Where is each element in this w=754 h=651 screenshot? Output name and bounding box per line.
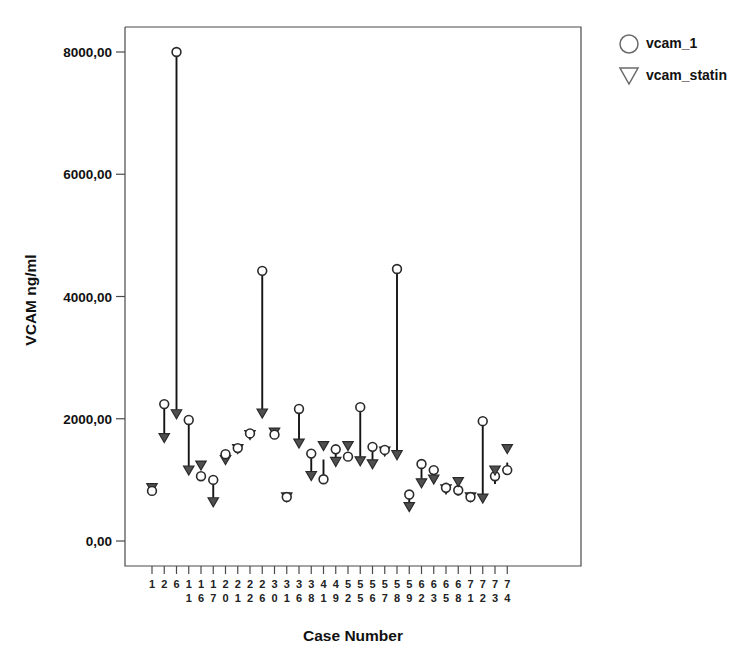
x-tick-label-digit: 2 <box>161 578 167 590</box>
x-tick-label-digit: 5 <box>406 578 412 590</box>
x-tick-label-digit: 5 <box>394 578 400 590</box>
x-tick-label-digit: 7 <box>504 578 510 590</box>
x-tick-label-digit: 7 <box>480 578 486 590</box>
x-tick-label-digit: 2 <box>480 592 486 604</box>
x-tick-label-digit: 1 <box>467 592 473 604</box>
x-tick-label-digit: 9 <box>406 592 412 604</box>
y-tick-label: 2000,00 <box>63 412 112 427</box>
x-tick-label-digit: 6 <box>198 592 204 604</box>
x-tick-label-digit: 3 <box>284 578 290 590</box>
marker-vcam-1 <box>344 452 353 461</box>
y-axis-title-text: VCAM ng/ml <box>22 254 39 345</box>
x-tick-label-digit: 0 <box>222 592 228 604</box>
x-tick-label-digit: 3 <box>431 592 437 604</box>
data-pair <box>465 493 475 502</box>
x-axis-title-text: Case Number <box>303 627 403 644</box>
x-tick-label-digit: 6 <box>443 578 449 590</box>
x-tick-label-digit: 8 <box>308 592 314 604</box>
marker-vcam-1 <box>356 403 365 412</box>
marker-vcam-1 <box>148 486 157 495</box>
x-tick-label-digit: 8 <box>394 592 400 604</box>
x-tick-label-digit: 4 <box>504 592 511 604</box>
x-tick-label-digit: 1 <box>235 592 241 604</box>
marker-vcam-1 <box>393 265 402 274</box>
y-tick-label: 4000,00 <box>63 290 112 305</box>
x-tick-label-digit: 6 <box>431 578 437 590</box>
x-tick-label-digit: 7 <box>210 592 216 604</box>
data-pair <box>147 484 157 496</box>
x-tick-label-digit: 2 <box>235 578 241 590</box>
marker-vcam-1 <box>270 430 279 439</box>
x-tick-label-digit: 5 <box>345 578 351 590</box>
marker-vcam-1 <box>417 460 426 469</box>
x-tick-label-digit: 1 <box>284 592 290 604</box>
marker-vcam-1 <box>246 429 255 438</box>
marker-vcam-1 <box>466 493 475 502</box>
marker-vcam-1 <box>478 417 487 426</box>
x-tick-label-digit: 6 <box>455 578 461 590</box>
x-tick-label-digit: 0 <box>271 592 277 604</box>
marker-vcam-1 <box>405 490 414 499</box>
marker-vcam-1 <box>380 446 389 455</box>
legend-label-vcam-statin: vcam_statin <box>646 67 727 83</box>
x-tick-label-digit: 5 <box>357 578 363 590</box>
marker-vcam-1 <box>282 493 291 502</box>
x-tick-label-digit: 6 <box>418 578 424 590</box>
x-tick-label-digit: 5 <box>443 592 449 604</box>
circle-marker-icon <box>620 35 638 53</box>
marker-vcam-1 <box>307 449 316 458</box>
y-tick-label: 0,00 <box>86 534 112 549</box>
marker-vcam-1 <box>429 466 438 475</box>
x-tick-label-digit: 3 <box>271 578 277 590</box>
vcam-arrow-chart: 0,002000,004000,006000,008000,00 VCAM ng… <box>0 0 754 651</box>
y-tick-label: 6000,00 <box>63 167 112 182</box>
data-pair <box>269 428 279 439</box>
x-tick-label-digit: 2 <box>345 592 351 604</box>
x-tick-label-digit: 2 <box>259 578 265 590</box>
x-tick-label-digit: 3 <box>492 592 498 604</box>
x-tick-label-digit: 2 <box>418 592 424 604</box>
marker-vcam-1 <box>233 444 242 453</box>
x-tick-label-digit: 6 <box>259 592 265 604</box>
x-tick-label-digit: 1 <box>149 578 155 590</box>
x-tick-label-digit: 7 <box>467 578 473 590</box>
x-tick-label-digit: 1 <box>186 578 192 590</box>
marker-vcam-1 <box>331 445 340 454</box>
marker-vcam-1 <box>172 48 181 57</box>
marker-vcam-1 <box>209 475 218 484</box>
data-pair <box>282 493 292 502</box>
chart-background <box>0 0 754 651</box>
y-tick-label: 8000,00 <box>63 45 112 60</box>
x-tick-label-digit: 3 <box>296 578 302 590</box>
x-tick-label-digit: 2 <box>247 578 253 590</box>
x-tick-label-digit: 5 <box>369 578 375 590</box>
x-tick-label-digit: 4 <box>333 578 340 590</box>
x-tick-label-digit: 1 <box>186 592 192 604</box>
legend-label-vcam-1: vcam_1 <box>646 35 698 51</box>
x-tick-label-digit: 5 <box>357 592 363 604</box>
x-tick-label-digit: 6 <box>173 578 179 590</box>
x-tick-label-digit: 4 <box>320 578 327 590</box>
marker-vcam-1 <box>368 442 377 451</box>
x-tick-label-digit: 5 <box>382 578 388 590</box>
x-tick-label-digit: 1 <box>210 578 216 590</box>
marker-vcam-1 <box>197 472 206 481</box>
x-tick-label-digit: 6 <box>369 592 375 604</box>
marker-vcam-1 <box>184 416 193 425</box>
x-tick-label-digit: 2 <box>247 592 253 604</box>
x-tick-label-digit: 7 <box>492 578 498 590</box>
data-pair <box>453 478 463 496</box>
x-tick-label-digit: 6 <box>296 592 302 604</box>
x-tick-label-digit: 8 <box>455 592 461 604</box>
y-axis-title: VCAM ng/ml <box>22 254 39 345</box>
x-tick-label-digit: 2 <box>222 578 228 590</box>
x-tick-label-digit: 9 <box>333 592 339 604</box>
marker-vcam-1 <box>295 405 304 414</box>
x-tick-label-digit: 1 <box>198 578 204 590</box>
x-tick-label-digit: 3 <box>308 578 314 590</box>
legend-entry-vcam-1: vcam_1 <box>620 35 698 53</box>
marker-vcam-1 <box>160 400 169 409</box>
marker-vcam-1 <box>319 475 328 484</box>
marker-vcam-1 <box>503 466 512 475</box>
marker-vcam-1 <box>442 483 451 492</box>
